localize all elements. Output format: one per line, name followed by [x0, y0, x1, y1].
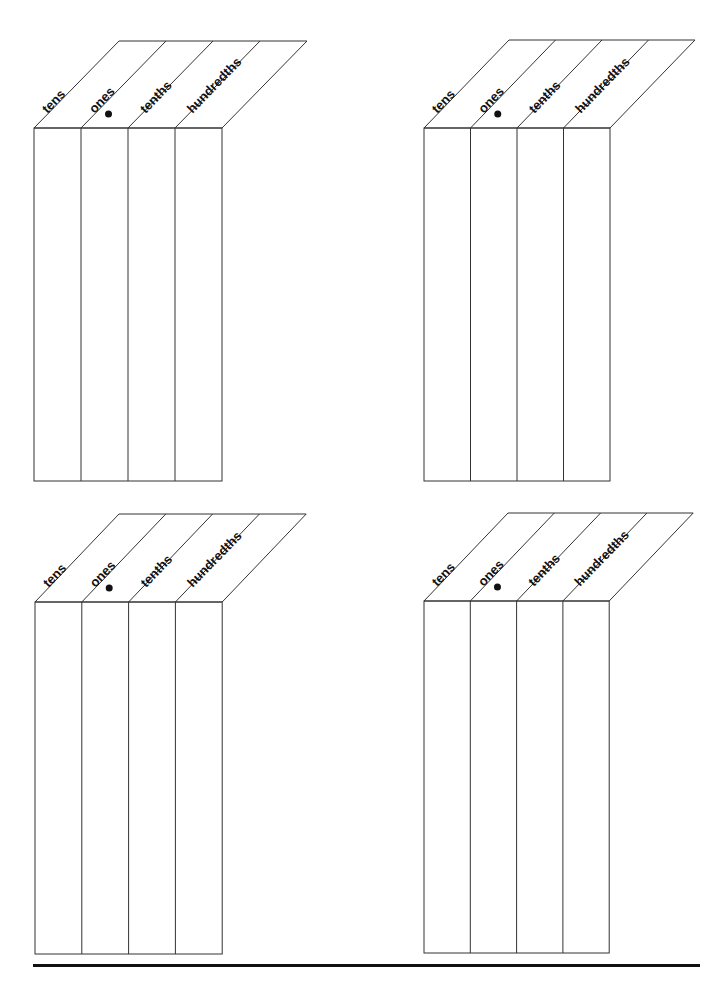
footer-rule: [33, 964, 700, 967]
column-label-tenths: tenths: [525, 551, 563, 589]
column-label-ones: ones: [475, 557, 507, 589]
column-label-tens: tens: [429, 559, 458, 589]
decimal-point-dot: [494, 584, 501, 591]
column-label-hundredths: hundredths: [571, 527, 631, 589]
place-value-chart-bottom-right: tensonestenthshundredths: [0, 0, 727, 982]
